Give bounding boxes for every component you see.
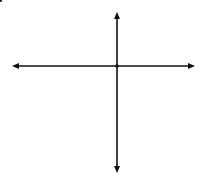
point-x-prime (0, 0, 2, 2)
y-axis-up-arrow-icon (114, 12, 120, 19)
y-axis-down-arrow-icon (114, 166, 120, 173)
x-axis-right-arrow-icon (188, 63, 195, 69)
coordinate-plane (0, 0, 203, 180)
x-axis-left-arrow-icon (12, 63, 19, 69)
axes (12, 12, 195, 173)
origin-point (115, 64, 119, 68)
